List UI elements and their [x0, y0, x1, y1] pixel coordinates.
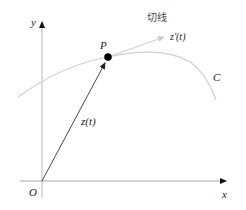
point-p: [104, 53, 112, 61]
tangent-line: [108, 37, 164, 57]
position-vector-label: z(t): [80, 115, 96, 128]
y-axis-label: y: [30, 16, 36, 28]
curve-c-label: C: [213, 71, 221, 83]
origin-label: O: [29, 186, 37, 198]
x-axis-label: x: [221, 188, 227, 200]
curve-c: [18, 52, 216, 100]
complex-plane-diagram: y x O P C z(t) z'(t) 切线: [0, 0, 246, 210]
point-p-label: P: [99, 39, 107, 51]
tangent-vector-label: z'(t): [169, 31, 186, 43]
tangent-title: 切线: [147, 11, 167, 23]
